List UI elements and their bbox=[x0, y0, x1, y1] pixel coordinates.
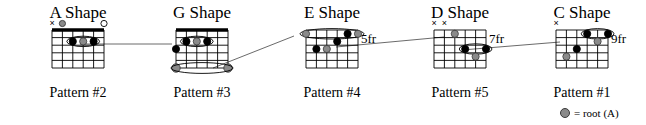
root-note-dot[interactable] bbox=[451, 30, 458, 37]
muted-string-marker: × bbox=[49, 18, 54, 28]
open-string-marker bbox=[101, 20, 107, 26]
finger-dot[interactable] bbox=[344, 30, 351, 37]
finger-dot[interactable] bbox=[334, 38, 341, 45]
fretboard-diagram[interactable] bbox=[162, 16, 242, 80]
finger-dot[interactable] bbox=[204, 38, 211, 45]
fret-position-label: 7fr bbox=[489, 32, 504, 45]
muted-string-marker: × bbox=[553, 18, 558, 28]
chord-chart-canvas: A Shape×Pattern #2G ShapePattern #3E Sha… bbox=[0, 0, 646, 125]
muted-string-marker: × bbox=[431, 18, 436, 28]
pattern-label: Pattern #1 bbox=[522, 85, 642, 101]
fret-position-label: 9fr bbox=[611, 32, 626, 45]
finger-dot[interactable] bbox=[462, 45, 469, 52]
finger-dot[interactable] bbox=[90, 38, 97, 45]
finger-dot[interactable] bbox=[69, 38, 76, 45]
pattern-label: Pattern #5 bbox=[400, 85, 520, 101]
fretboard-diagram[interactable] bbox=[292, 16, 372, 80]
finger-dot[interactable] bbox=[584, 30, 591, 37]
root-note-dot[interactable] bbox=[80, 38, 87, 45]
root-note-dot[interactable] bbox=[323, 45, 330, 52]
root-dot-icon bbox=[560, 108, 570, 118]
pattern-label: Pattern #4 bbox=[272, 85, 392, 101]
finger-dot[interactable] bbox=[313, 45, 320, 52]
open-root-marker bbox=[59, 20, 65, 26]
root-note-dot[interactable] bbox=[594, 38, 601, 45]
root-note-dot[interactable] bbox=[563, 53, 570, 60]
legend-label: = root (A) bbox=[574, 107, 619, 119]
muted-string-marker: × bbox=[442, 18, 447, 28]
finger-dot[interactable] bbox=[573, 45, 580, 52]
legend: = root (A) bbox=[560, 106, 619, 119]
fretboard-diagram[interactable]: ×× bbox=[420, 16, 500, 80]
finger-dot[interactable] bbox=[172, 45, 179, 52]
root-note-dot[interactable] bbox=[472, 53, 479, 60]
pattern-label: Pattern #3 bbox=[142, 85, 262, 101]
finger-dot[interactable] bbox=[482, 45, 489, 52]
pattern-label: Pattern #2 bbox=[18, 85, 138, 101]
root-note-dot[interactable] bbox=[302, 30, 309, 37]
fretboard-diagram[interactable]: × bbox=[542, 16, 622, 80]
finger-dot[interactable] bbox=[183, 38, 190, 45]
root-note-dot[interactable] bbox=[193, 38, 200, 45]
fretboard-diagram[interactable]: × bbox=[38, 16, 118, 80]
fret-position-label: 5fr bbox=[361, 32, 376, 45]
